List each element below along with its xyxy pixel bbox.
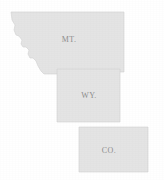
state-map-canvas: MT. WY. CO. [0, 0, 164, 180]
state-colorado: CO. [79, 127, 148, 172]
montana-label: MT. [62, 35, 77, 44]
wyoming-label: WY. [81, 91, 97, 100]
state-wyoming: WY. [57, 69, 120, 122]
colorado-label: CO. [102, 146, 116, 155]
map-figure: MT. WY. CO. [0, 0, 164, 180]
